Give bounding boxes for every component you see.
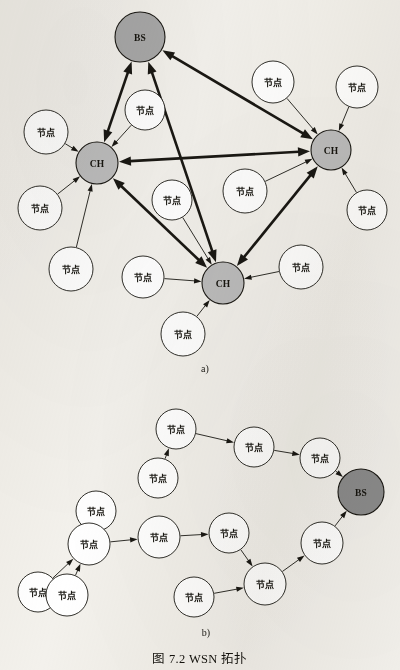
cluster-head-node[interactable]: CH [202,262,244,304]
node-label: 节点 [348,82,366,93]
sensor-node[interactable]: 节点 [152,180,192,220]
node-label: 节点 [264,77,282,88]
arrow-head [246,559,252,567]
arrow-head [119,157,131,166]
sensor-node[interactable]: 节点 [138,458,178,498]
panel-b-nodes: BS节点节点节点节点节点节点节点节点节点节点节点节点节点 [18,409,384,617]
sensor-node[interactable]: 节点 [68,523,110,565]
member-link [214,589,240,594]
node-label: BS [134,33,146,43]
sensor-node[interactable]: 节点 [125,90,165,130]
cluster-head-node[interactable]: CH [76,142,118,184]
sensor-node[interactable]: 节点 [49,247,93,291]
arrow-head [123,62,132,75]
sensor-node[interactable]: 节点 [161,312,205,356]
figure-container: BSCHCHCH节点节点节点节点节点节点节点节点节点节点节点节点 BS节点节点节… [0,0,400,670]
sensor-node[interactable]: 节点 [24,110,68,154]
backbone-link [106,68,129,136]
node-label: 节点 [185,592,203,603]
node-label: CH [216,279,231,289]
node-label: CH [324,146,339,156]
arrow-head [339,123,344,131]
node-label: 节点 [174,329,192,340]
node-label: 节点 [58,590,76,601]
sensor-node[interactable]: 节点 [244,563,286,605]
arrow-head [194,278,202,283]
node-label: 节点 [313,538,331,549]
panel-a-label: a) [201,363,209,375]
node-label: 节点 [87,506,105,517]
node-label: 节点 [134,272,152,283]
sensor-node[interactable]: 节点 [234,427,274,467]
figure-caption: 图 7.2 WSN 拓扑 [0,648,400,667]
arrow-head [292,451,300,456]
node-label: 节点 [220,528,238,539]
arrow-head [300,129,313,139]
arrow-head [164,448,169,456]
member-link [110,540,133,542]
arrow-head [297,556,305,562]
sensor-node[interactable]: 节点 [223,169,267,213]
member-link [196,434,230,442]
arrow-head [104,129,113,142]
arrow-head [305,159,313,165]
node-label: 节点 [149,473,167,484]
node-label: 节点 [236,186,254,197]
node-label: 节点 [311,453,329,464]
node-label: 节点 [245,442,263,453]
member-link [180,534,204,535]
member-link [265,161,308,182]
node-label: 节点 [136,105,154,116]
base-station-node[interactable]: BS [115,12,165,62]
member-link [183,217,210,261]
member-link [344,171,357,192]
member-link [164,279,197,281]
arrow-head [236,587,244,592]
sensor-node[interactable]: 节点 [336,66,378,108]
node-label: 节点 [256,579,274,590]
sensor-node[interactable]: 节点 [209,513,249,553]
base-station-node[interactable]: BS [338,469,384,515]
sensor-node[interactable]: 节点 [300,438,340,478]
arrow-head [203,300,210,308]
sensor-node[interactable]: 节点 [18,186,62,230]
sensor-node[interactable]: 节点 [347,190,387,230]
node-label: CH [90,159,105,169]
arrow-head [130,537,138,542]
arrow-head [340,511,347,519]
sensor-node[interactable]: 节点 [279,245,323,289]
node-label: 节点 [31,203,49,214]
sensor-node[interactable]: 节点 [252,61,294,103]
arrow-head [226,438,234,443]
member-link [248,272,279,278]
arrow-head [71,146,79,152]
sensor-node[interactable]: 节点 [156,409,196,449]
arrow-head [298,147,310,156]
node-label: 节点 [62,264,80,275]
member-link [76,188,91,247]
sensor-node[interactable]: 节点 [174,577,214,617]
arrow-head [201,532,209,537]
node-label: 节点 [163,195,181,206]
sensor-node[interactable]: 节点 [138,516,180,558]
sensor-node[interactable]: 节点 [122,256,164,298]
member-link [58,179,77,194]
arrow-head [73,176,81,183]
node-label: 节点 [150,532,168,543]
sensor-node[interactable]: 节点 [46,574,88,616]
node-label: 节点 [292,262,310,273]
cluster-head-node[interactable]: CH [311,130,351,170]
panel-a-nodes: BSCHCHCH节点节点节点节点节点节点节点节点节点节点节点节点 [18,12,387,356]
sensor-node[interactable]: 节点 [301,522,343,564]
node-label: 节点 [167,424,185,435]
arrow-head [206,257,212,265]
arrow-head [342,168,348,176]
panel-b-label: b) [202,627,210,639]
node-label: BS [355,488,367,498]
arrow-head [162,50,175,60]
member-link [114,125,131,144]
arrow-head [75,564,80,572]
node-label: 节点 [29,587,47,598]
wsn-topology-figure: BSCHCHCH节点节点节点节点节点节点节点节点节点节点节点节点 BS节点节点节… [0,0,400,670]
arrow-head [244,275,252,280]
